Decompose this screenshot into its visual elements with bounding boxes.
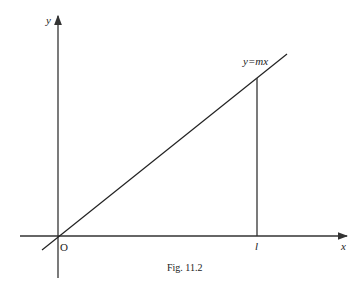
line-label: y=mx bbox=[243, 55, 268, 67]
y-axis-label: y bbox=[46, 14, 51, 26]
origin-label: O bbox=[60, 241, 68, 253]
figure-caption: Fig. 11.2 bbox=[167, 262, 202, 273]
diagram-canvas bbox=[0, 0, 364, 285]
x-axis-label: x bbox=[341, 240, 346, 252]
point-l-label: l bbox=[255, 240, 258, 252]
line-y-mx bbox=[42, 54, 287, 250]
